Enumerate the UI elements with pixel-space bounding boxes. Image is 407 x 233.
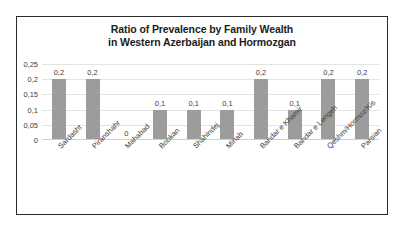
y-axis-tick-label: 0: [34, 136, 38, 145]
bar-value-label: 0,1: [155, 99, 165, 108]
bar[interactable]: [52, 79, 66, 140]
bar-value-label: 0,2: [357, 68, 367, 77]
y-axis-tick-label: 0,25: [23, 60, 38, 69]
x-axis-category-labels: SardashtPiranshahrMahabadBookanShahindej…: [42, 141, 379, 213]
y-axis-tick-labels: 00,050,10,150,20,25: [17, 64, 40, 140]
bar-value-label: 0,1: [222, 99, 232, 108]
chart-title-line-1: Ratio of Prevalence by Family Wealth: [17, 23, 387, 36]
y-axis-tick-label: 0,2: [28, 75, 38, 84]
bar-value-label: 0,2: [54, 68, 64, 77]
chart-title: Ratio of Prevalence by Family Wealth in …: [17, 23, 387, 49]
chart-figure-frame: Ratio of Prevalence by Family Wealth in …: [16, 16, 388, 215]
y-axis-tick-label: 0,1: [28, 105, 38, 114]
y-axis-tick-label: 0,05: [23, 120, 38, 129]
bar-value-label: 0,2: [87, 68, 97, 77]
chart-title-line-2: in Western Azerbaijan and Hormozgan: [17, 36, 387, 49]
bar-value-label: 0: [124, 129, 128, 138]
bar[interactable]: [86, 79, 100, 140]
bar-value-label: 0,2: [256, 68, 266, 77]
bar-value-label: 0,2: [323, 68, 333, 77]
y-axis-tick-label: 0,15: [23, 90, 38, 99]
bar-value-label: 0,1: [188, 99, 198, 108]
bar[interactable]: [254, 79, 268, 140]
